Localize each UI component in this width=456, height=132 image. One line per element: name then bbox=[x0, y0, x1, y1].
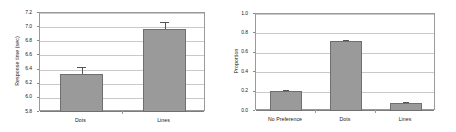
chart-panel-left: Response time (sec) 5.86.06.26.46.66.87.… bbox=[0, 0, 228, 132]
error-bar-stem bbox=[165, 22, 166, 29]
y-axis-tick-label: 0.0 bbox=[230, 107, 248, 113]
y-axis-tick-label: 0.2 bbox=[230, 87, 248, 93]
x-axis-tick-mark bbox=[122, 111, 123, 114]
figure-root: Response time (sec) 5.86.06.26.46.66.87.… bbox=[0, 0, 456, 132]
y-axis-tick-mark bbox=[37, 111, 40, 112]
y-axis-tick-label: 6.6 bbox=[2, 51, 32, 57]
error-bar-cap bbox=[403, 102, 410, 103]
gridline bbox=[256, 14, 434, 15]
error-bar-cap bbox=[160, 22, 169, 23]
y-axis-label-left: Response time (sec) bbox=[14, 21, 20, 101]
error-bar-cap bbox=[77, 67, 86, 68]
x-axis-tick-mark bbox=[375, 110, 376, 113]
x-axis-tick-label: Dots bbox=[46, 117, 116, 123]
x-axis-tick-mark bbox=[315, 110, 316, 113]
bar bbox=[330, 41, 362, 111]
y-axis-tick-mark bbox=[253, 110, 256, 111]
y-axis-tick-label: 6.4 bbox=[2, 65, 32, 71]
bar bbox=[270, 91, 302, 111]
y-axis-tick-label: 6.0 bbox=[2, 93, 32, 99]
x-axis-tick-label: Lines bbox=[370, 116, 440, 122]
plot-area-left bbox=[39, 12, 205, 111]
y-axis-tick-label: 0.4 bbox=[230, 68, 248, 74]
y-axis-tick-label: 5.8 bbox=[2, 108, 32, 114]
y-axis-tick-label: 0.6 bbox=[230, 48, 248, 54]
gridline bbox=[256, 33, 434, 34]
plot-area-right bbox=[255, 13, 435, 110]
y-axis-tick-label: 7.2 bbox=[2, 9, 32, 15]
y-axis-tick-label: 6.8 bbox=[2, 37, 32, 43]
x-axis-tick-label: Lines bbox=[129, 117, 199, 123]
error-bar-cap bbox=[343, 40, 350, 41]
bar bbox=[60, 74, 103, 112]
gridline bbox=[40, 27, 204, 28]
gridline bbox=[40, 13, 204, 14]
y-axis-tick-label: 6.2 bbox=[2, 79, 32, 85]
y-axis-tick-label: 7.0 bbox=[2, 23, 32, 29]
chart-panel-right: Proportion 0.00.20.40.60.81.0 No Prefere… bbox=[228, 0, 456, 132]
y-axis-tick-label: 1.0 bbox=[230, 10, 248, 16]
y-axis-tick-label: 0.8 bbox=[230, 29, 248, 35]
bar bbox=[143, 29, 186, 112]
bar bbox=[390, 103, 422, 111]
error-bar-cap bbox=[283, 90, 290, 91]
